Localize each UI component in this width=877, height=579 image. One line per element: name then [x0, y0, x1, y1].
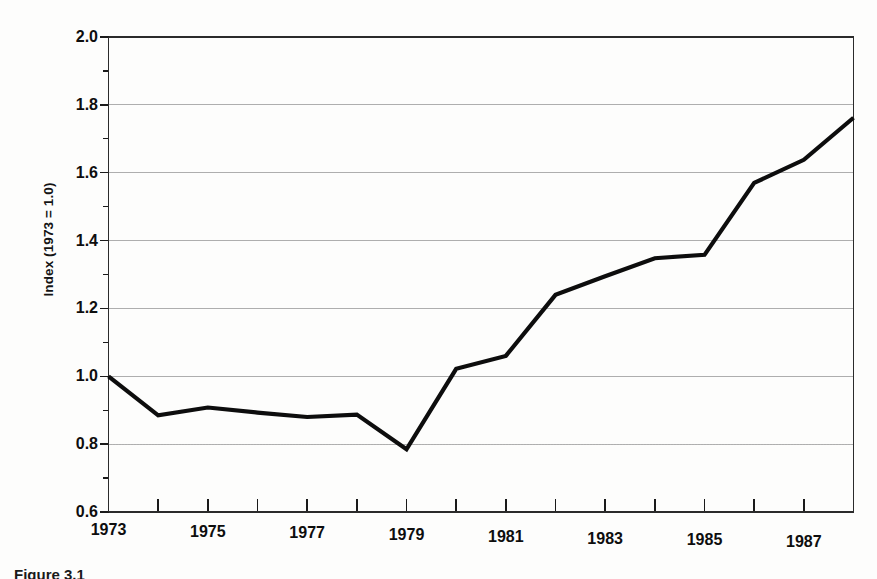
plot-frame	[109, 37, 854, 512]
data-series-line	[109, 118, 854, 449]
figure-caption: Figure 3.1	[14, 566, 85, 579]
y-axis-minor-ticks	[103, 71, 109, 478]
plot-area	[0, 0, 877, 579]
gridlines	[109, 105, 854, 444]
x-axis-ticks	[109, 499, 854, 512]
figure-container: Index (1973 = 1.0) 2.01.81.61.41.21.00.8…	[0, 0, 877, 579]
